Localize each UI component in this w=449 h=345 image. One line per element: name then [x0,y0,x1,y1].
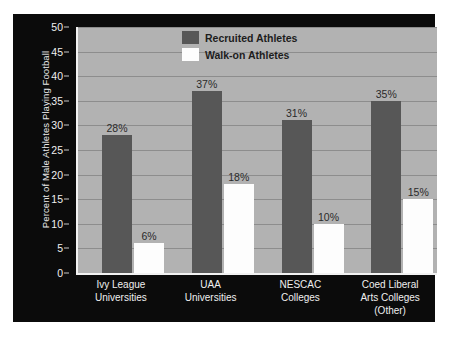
y-axis-tick-mark [64,51,69,52]
y-axis-tick-mark [64,76,69,77]
chart-panel: Percent of Male Athletes Playing Footbal… [13,14,435,322]
y-axis-tick-label: 0 [57,267,63,279]
y-axis-tick-label: 40 [51,70,63,82]
bar-recruited[interactable]: 35% [371,101,401,273]
y-axis-tick-label: 30 [51,119,63,131]
x-axis-category-line: Arts Colleges [347,291,433,304]
y-axis-tick-label: 25 [51,144,63,156]
bar-value-label: 31% [286,107,307,119]
y-axis-tick-mark [64,174,69,175]
bar-walkon[interactable]: 15% [403,199,433,273]
x-axis-category-label: Coed LiberalArts Colleges(Other) [345,278,435,317]
y-axis-tick-labels: 05101520253035404550 [43,27,69,273]
bar-walkon[interactable]: 10% [314,224,344,273]
bar-value-label: 35% [376,88,397,100]
bar-value-label: 15% [408,186,429,198]
x-axis-category-line: (Other) [347,304,433,317]
bar-value-label: 28% [106,122,127,134]
x-axis-category-line: Universities [168,291,254,304]
x-axis-category-label: Ivy LeagueUniversities [76,278,166,317]
y-axis-tick-mark [64,199,69,200]
x-axis-category-label: NESCACColleges [256,278,346,317]
legend-swatch-recruited [182,31,199,44]
x-axis-category-line: UAA [168,278,254,291]
y-axis-tick-mark [64,125,69,126]
x-axis-category-line: Universities [78,291,164,304]
bar-group: 35%15% [347,27,437,273]
bar-value-label: 18% [228,171,249,183]
legend-label: Recruited Athletes [205,32,297,44]
plot-area: 28%6%37%18%31%10%35%15% [76,27,437,275]
chart-legend: Recruited AthletesWalk-on Athletes [182,31,297,61]
bar-recruited[interactable]: 31% [282,120,312,273]
y-axis-tick-mark [64,248,69,249]
y-axis-tick-label: 45 [51,46,63,58]
y-axis-tick-label: 50 [51,21,63,33]
legend-item[interactable]: Recruited Athletes [182,31,297,44]
bar-walkon[interactable]: 6% [134,243,164,273]
y-axis-tick-label: 20 [51,169,63,181]
legend-item[interactable]: Walk-on Athletes [182,48,297,61]
bar-chart-figure: Percent of Male Athletes Playing Footbal… [0,0,449,345]
x-axis-category-labels: Ivy LeagueUniversitiesUAAUniversitiesNES… [76,278,435,317]
bar-value-label: 37% [196,78,217,90]
y-axis-tick-mark [64,223,69,224]
y-axis-tick-mark [64,273,69,274]
bar-value-label: 10% [318,211,339,223]
y-axis-tick-mark [64,27,69,28]
y-axis-tick-mark [64,150,69,151]
x-axis-category-line: NESCAC [258,278,344,291]
x-axis-category-line: Coed Liberal [347,278,433,291]
bar-groups: 28%6%37%18%31%10%35%15% [78,27,437,273]
bar-recruited[interactable]: 37% [192,91,222,273]
bar-recruited[interactable]: 28% [102,135,132,273]
y-axis-tick-label: 10 [51,218,63,230]
x-axis-category-line: Colleges [258,291,344,304]
legend-label: Walk-on Athletes [205,49,289,61]
y-axis-tick-label: 35 [51,95,63,107]
bar-walkon[interactable]: 18% [224,184,254,273]
x-axis-category-label: UAAUniversities [166,278,256,317]
bar-value-label: 6% [141,230,156,242]
bar-group: 37%18% [168,27,258,273]
y-axis-tick-label: 5 [57,242,63,254]
y-axis-tick-mark [64,100,69,101]
legend-swatch-walkon [182,48,199,61]
y-axis-tick-label: 15 [51,193,63,205]
bar-group: 31%10% [258,27,348,273]
x-axis-category-line: Ivy League [78,278,164,291]
bar-group: 28%6% [78,27,168,273]
